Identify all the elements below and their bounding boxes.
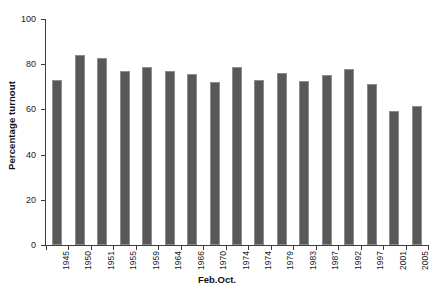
bar xyxy=(165,71,175,245)
x-axis-tick xyxy=(46,245,47,250)
x-axis-tick-label: 1987 xyxy=(330,251,340,270)
bar xyxy=(187,74,197,245)
x-axis-tick-label: 1974 xyxy=(263,251,273,270)
x-axis-tick-label: 1950 xyxy=(83,251,93,270)
bar xyxy=(210,82,220,245)
x-axis-tick xyxy=(226,245,227,250)
y-axis-tick-label: 80 xyxy=(0,59,36,69)
x-axis-tick xyxy=(158,245,159,250)
bar xyxy=(52,80,62,245)
bar xyxy=(142,67,152,245)
y-axis-tick-label: 40 xyxy=(0,150,36,160)
bar xyxy=(412,106,422,245)
x-axis-tick-label: 1974 xyxy=(241,251,251,270)
x-axis-tick xyxy=(136,245,137,250)
x-axis-tick-label: 1983 xyxy=(308,251,318,270)
x-axis-tick-label: 2005 xyxy=(420,251,430,270)
bar xyxy=(97,58,107,245)
x-axis-tick-label: 1970 xyxy=(218,251,228,270)
bar xyxy=(277,73,287,245)
bar xyxy=(344,69,354,245)
x-axis-tick xyxy=(316,245,317,250)
x-axis-tick-label: 2001 xyxy=(398,251,408,270)
x-axis-tick-label: 1966 xyxy=(196,251,206,270)
y-axis-title: Percentage turnout xyxy=(0,0,22,250)
x-axis-tick-label: 1951 xyxy=(106,251,116,270)
bar-chart: Percentage turnout 020406080100 19451950… xyxy=(0,0,434,293)
x-axis-tick xyxy=(248,245,249,250)
y-axis-tick-label: 20 xyxy=(0,195,36,205)
x-axis-tick-label: 1959 xyxy=(151,251,161,270)
x-axis-tick xyxy=(293,245,294,250)
x-axis-tick-label: 1945 xyxy=(61,251,71,270)
x-axis-tick xyxy=(113,245,114,250)
x-axis-tick-label: 1979 xyxy=(285,251,295,270)
x-axis-tick xyxy=(91,245,92,250)
x-axis-tick xyxy=(361,245,362,250)
x-axis-tick xyxy=(338,245,339,250)
bar xyxy=(120,71,130,245)
bar xyxy=(75,55,85,245)
x-axis-tick xyxy=(181,245,182,250)
x-axis-tick xyxy=(406,245,407,250)
x-axis-tick xyxy=(383,245,384,250)
x-axis-tick-label: 1955 xyxy=(128,251,138,270)
y-axis-tick-label: 60 xyxy=(0,104,36,114)
y-axis-tick-label: 100 xyxy=(0,14,36,24)
bar xyxy=(232,67,242,245)
bar xyxy=(254,80,264,245)
x-axis-tick-label: 1997 xyxy=(375,251,385,270)
bar xyxy=(367,84,377,245)
x-axis-tick xyxy=(203,245,204,250)
plot-area xyxy=(46,19,428,245)
x-axis-caption: Feb.Oct. xyxy=(0,274,434,285)
x-axis-tick xyxy=(428,245,429,250)
bar xyxy=(322,75,332,245)
bar xyxy=(389,111,399,245)
x-axis-tick xyxy=(68,245,69,250)
bar xyxy=(299,81,309,245)
x-axis-tick-label: 1964 xyxy=(173,251,183,270)
x-axis-tick xyxy=(271,245,272,250)
x-axis-tick-label: 1992 xyxy=(353,251,363,270)
